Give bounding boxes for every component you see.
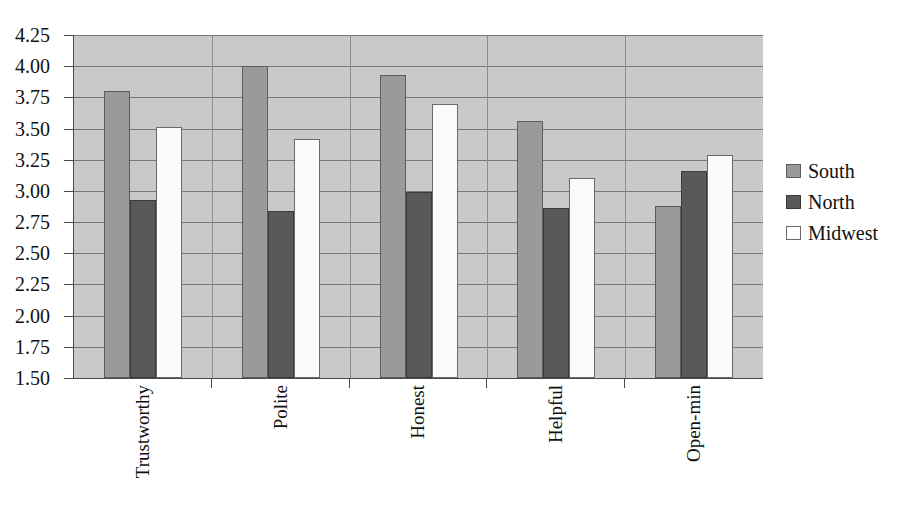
legend-item-north[interactable]: North (786, 186, 905, 217)
y-axis-tick-label: 3.50 (0, 119, 50, 139)
legend-item-midwest[interactable]: Midwest (786, 217, 905, 248)
gridline (74, 66, 763, 67)
bar-south-trustworthy (104, 91, 130, 378)
category-separator (350, 35, 351, 378)
x-axis-category-label: Trustworthy (73, 379, 211, 509)
x-axis-category-text: Polite (270, 385, 289, 429)
category-separator (625, 35, 626, 378)
category-separator (212, 35, 213, 378)
y-axis-tick-label: 2.50 (0, 243, 50, 263)
bar-midwest-trustworthy (156, 127, 182, 378)
chart-legend: SouthNorthMidwest (786, 155, 905, 248)
gridline (74, 97, 763, 98)
category-separator (487, 35, 488, 378)
legend-swatch-icon-south (786, 164, 801, 178)
bar-north-polite (268, 211, 294, 378)
bar-north-open-min (681, 171, 707, 378)
legend-swatch-icon-north (786, 195, 801, 209)
y-axis-tick-label: 3.75 (0, 87, 50, 107)
y-axis-tick-label: 2.75 (0, 212, 50, 232)
x-axis-category-label: Helpful (486, 379, 624, 509)
bar-north-trustworthy (130, 200, 156, 378)
x-axis-category-text: Trustworthy (132, 385, 151, 478)
y-axis-tick-mark (64, 35, 73, 36)
legend-item-south[interactable]: South (786, 155, 905, 186)
bar-south-helpful (517, 121, 543, 378)
bar-midwest-open-min (707, 155, 733, 378)
y-axis-tick-mark (64, 66, 73, 67)
y-axis-tick-mark (64, 191, 73, 192)
x-axis-category-text: Open-min (684, 385, 703, 462)
bar-south-open-min (655, 206, 681, 378)
bar-south-honest (380, 75, 406, 378)
legend-label: North (808, 192, 855, 212)
y-axis-tick-label: 3.00 (0, 181, 50, 201)
clipped-chart-title (185, 0, 605, 2)
y-axis-tick-label: 2.00 (0, 306, 50, 326)
y-axis-tick-label: 4.25 (0, 25, 50, 45)
plot-area (73, 35, 763, 379)
y-axis-tick-label: 3.25 (0, 150, 50, 170)
y-axis-tick-mark (64, 284, 73, 285)
x-axis-category-label: Open-min (624, 379, 762, 509)
y-axis-tick-mark (64, 316, 73, 317)
bar-midwest-helpful (569, 178, 595, 378)
y-axis-tick-mark (64, 347, 73, 348)
x-axis-category-label: Polite (211, 379, 349, 509)
y-axis-tick-label: 1.75 (0, 337, 50, 357)
y-axis-tick-mark (64, 160, 73, 161)
y-axis-tick-label: 2.25 (0, 274, 50, 294)
y-axis-tick-mark (64, 378, 73, 379)
y-axis-tick-label: 1.50 (0, 368, 50, 388)
bar-midwest-honest (432, 104, 458, 378)
legend-swatch-icon-midwest (786, 226, 801, 240)
x-axis-category-text: Honest (408, 385, 427, 439)
bar-north-honest (406, 192, 432, 378)
legend-label: Midwest (808, 223, 878, 243)
bar-midwest-polite (294, 139, 320, 378)
y-axis-tick-label: 4.00 (0, 56, 50, 76)
y-axis-tick-mark (64, 222, 73, 223)
x-axis: TrustworthyPoliteHonestHelpfulOpen-min (73, 379, 762, 511)
legend-label: South (808, 161, 855, 181)
y-axis-tick-mark (64, 253, 73, 254)
y-axis: 4.254.003.753.503.253.002.752.502.252.00… (0, 35, 62, 378)
x-axis-category-text: Helpful (546, 385, 565, 443)
y-axis-tick-mark (64, 129, 73, 130)
x-axis-category-label: Honest (349, 379, 487, 509)
bar-south-polite (242, 66, 268, 378)
gridline (74, 35, 763, 36)
bar-chart: 4.254.003.753.503.253.002.752.502.252.00… (0, 0, 905, 511)
bar-north-helpful (543, 208, 569, 378)
y-axis-tick-mark (64, 97, 73, 98)
